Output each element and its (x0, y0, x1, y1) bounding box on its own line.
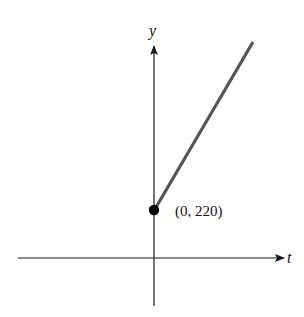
x-axis-label: t (287, 249, 292, 266)
point-marker (149, 205, 159, 215)
chart-canvas: (0, 220) y t (0, 0, 304, 317)
point-label: (0, 220) (175, 203, 223, 220)
data-line (155, 42, 253, 209)
y-axis-label: y (147, 22, 157, 40)
